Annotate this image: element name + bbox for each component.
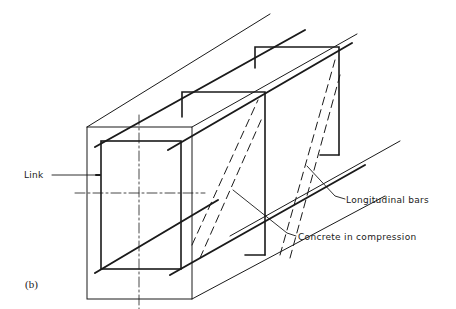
beam-outline bbox=[87, 14, 400, 299]
front-link bbox=[101, 141, 181, 269]
centre-lines bbox=[75, 115, 205, 309]
compression-hatch bbox=[192, 60, 340, 258]
figure-caption: (b) bbox=[25, 278, 38, 291]
label-link: Link bbox=[24, 170, 44, 180]
label-longitudinal-bars: Longitudinal bars bbox=[346, 195, 429, 205]
beam-diagram: Link Longitudinal bars Concrete in compr… bbox=[0, 0, 456, 309]
label-concrete-in-compression: Concrete in compression bbox=[298, 232, 416, 242]
